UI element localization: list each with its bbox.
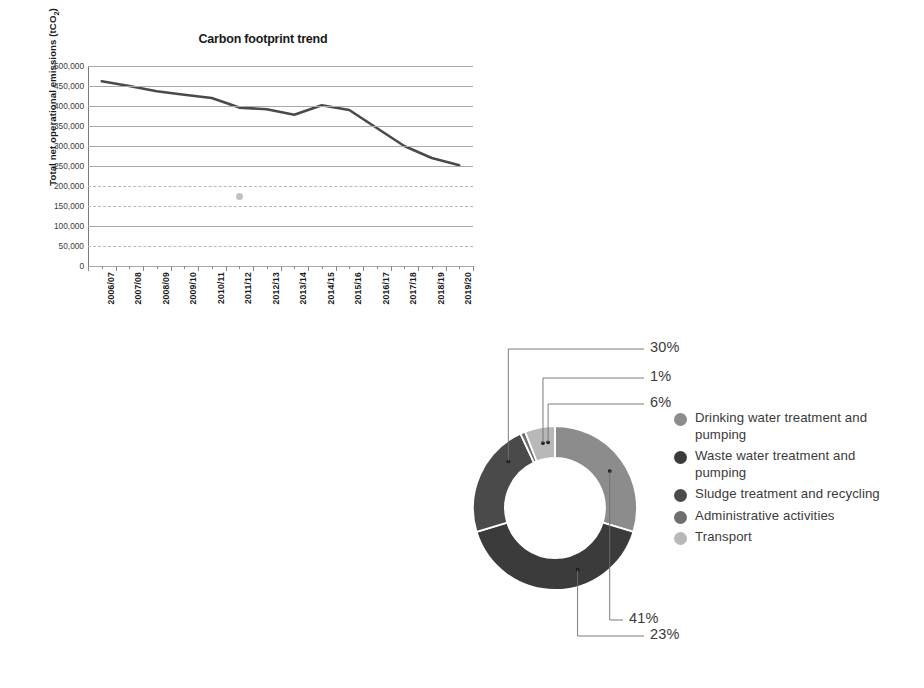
y-axis-tick-label: 150,000 (24, 201, 84, 211)
x-axis-minor-tick (349, 266, 350, 269)
y-axis-tick-label: 0 (24, 261, 84, 271)
gridline (88, 106, 473, 107)
donut-percentage-label: 1% (650, 368, 671, 384)
donut-percentage-label: 41% (629, 610, 659, 626)
x-axis-tick-label: 2006/07 (106, 272, 116, 304)
legend-item[interactable]: Sludge treatment and recycling (674, 486, 914, 503)
x-axis-tick-label: 2019/20 (463, 272, 473, 304)
gridline (88, 126, 473, 127)
x-axis-tick-label: 2010/11 (216, 272, 226, 304)
y-axis-tick-label: 500,000 (24, 61, 84, 71)
x-axis-tick-mark (226, 266, 227, 271)
legend-item-label: Sludge treatment and recycling (695, 486, 880, 503)
x-axis-tick-mark (473, 266, 474, 271)
x-axis-minor-tick (267, 266, 268, 269)
page-canvas: Carbon footprint trend Total net operati… (0, 0, 924, 688)
donut-segment[interactable] (555, 426, 637, 532)
legend-item[interactable]: Waste water treatment and pumping (674, 448, 914, 481)
x-axis-tick-label: 2009/10 (188, 272, 198, 304)
x-axis-tick-label: 2012/13 (271, 272, 281, 304)
donut-percentage-label: 23% (650, 626, 680, 642)
gridline (88, 226, 473, 227)
x-axis-tick-mark (253, 266, 254, 271)
x-axis-tick-mark (446, 266, 447, 271)
y-axis-label-tail: ) (47, 8, 58, 11)
x-axis-tick-mark (363, 266, 364, 271)
x-axis-minor-tick (459, 266, 460, 269)
donut-chart-legend: Drinking water treatment and pumpingWast… (674, 410, 914, 551)
x-axis-tick-mark (308, 266, 309, 271)
x-axis-minor-tick (322, 266, 323, 269)
legend-color-swatch-icon (674, 489, 687, 502)
legend-color-swatch-icon (674, 532, 687, 545)
gridline (88, 86, 473, 87)
legend-item-label: Administrative activities (695, 508, 835, 525)
x-axis-minor-tick (377, 266, 378, 269)
x-axis-tick-mark (336, 266, 337, 271)
x-axis-tick-label: 2017/18 (408, 272, 418, 304)
gridline (88, 186, 473, 187)
x-axis-tick-mark (171, 266, 172, 271)
y-axis-tick-label: 200,000 (24, 181, 84, 191)
x-axis-tick-label: 2007/08 (133, 272, 143, 304)
legend-item[interactable]: Administrative activities (674, 508, 914, 525)
donut-percentage-label: 30% (650, 339, 680, 355)
x-axis-tick-mark (281, 266, 282, 271)
gridline (88, 146, 473, 147)
donut-percentage-label: 6% (650, 394, 671, 410)
x-axis-tick-label: 2014/15 (326, 272, 336, 304)
x-axis-tick-mark (391, 266, 392, 271)
x-axis-minor-tick (184, 266, 185, 269)
x-axis-tick-label: 2013/14 (298, 272, 308, 304)
x-axis-tick-mark (116, 266, 117, 271)
legend-item-label: Transport (695, 529, 752, 546)
legend-item[interactable]: Transport (674, 529, 914, 546)
x-axis-minor-tick (129, 266, 130, 269)
gridline (88, 246, 473, 247)
gridline (88, 66, 473, 67)
x-axis-tick-mark (418, 266, 419, 271)
legend-item-label: Waste water treatment and pumping (695, 448, 900, 481)
donut-segment-group (473, 426, 637, 590)
x-axis-tick-label: 2011/12 (243, 272, 253, 304)
x-axis-minor-tick (404, 266, 405, 269)
donut-segment[interactable] (473, 434, 534, 532)
carbon-footprint-line-chart: Carbon footprint trend Total net operati… (30, 28, 490, 328)
legend-item-label: Drinking water treatment and pumping (695, 410, 900, 443)
x-axis-tick-mark (143, 266, 144, 271)
x-axis-tick-mark (88, 266, 89, 271)
y-axis-tick-label: 450,000 (24, 81, 84, 91)
emissions-breakdown-donut-chart: 30%1%6%41%23% (440, 336, 690, 636)
y-axis-tick-label: 300,000 (24, 141, 84, 151)
legend-item[interactable]: Drinking water treatment and pumping (674, 410, 914, 443)
line-chart-title: Carbon footprint trend (138, 32, 388, 46)
x-axis-tick-label: 2008/09 (161, 272, 171, 304)
x-axis-minor-tick (157, 266, 158, 269)
y-axis-tick-label: 350,000 (24, 121, 84, 131)
y-axis-label-subscript: 2 (52, 11, 61, 15)
legend-color-swatch-icon (674, 511, 687, 524)
x-axis-minor-tick (239, 266, 240, 269)
x-axis-tick-mark (198, 266, 199, 271)
x-axis-minor-tick (102, 266, 103, 269)
x-axis-tick-label: 2015/16 (353, 272, 363, 304)
gridline (88, 166, 473, 167)
y-axis-tick-label: 250,000 (24, 161, 84, 171)
legend-color-swatch-icon (674, 413, 687, 426)
legend-color-swatch-icon (674, 451, 687, 464)
x-axis-minor-tick (212, 266, 213, 269)
x-axis-minor-tick (294, 266, 295, 269)
x-axis-tick-label: 2018/19 (436, 272, 446, 304)
x-axis-minor-tick (432, 266, 433, 269)
y-axis-tick-label: 50,000 (24, 241, 84, 251)
gridline (88, 206, 473, 207)
y-axis-tick-label: 100,000 (24, 221, 84, 231)
y-axis-tick-label: 400,000 (24, 101, 84, 111)
x-axis-tick-label: 2016/17 (381, 272, 391, 304)
